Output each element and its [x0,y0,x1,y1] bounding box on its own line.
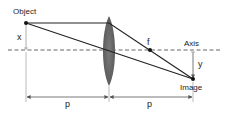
image-label: Image [180,84,202,92]
object-height-label: x [17,33,22,42]
object-distance-label: p [65,100,70,109]
image-distance-label: p [147,100,152,109]
focal-label: f [147,38,150,47]
object-label: Object [13,8,36,16]
image-point [191,77,195,81]
axis-label: Axis [184,40,199,48]
image-height-label: y [198,60,203,69]
focal-point [148,48,152,52]
lens-diagram [0,0,229,114]
object-point [24,21,28,25]
